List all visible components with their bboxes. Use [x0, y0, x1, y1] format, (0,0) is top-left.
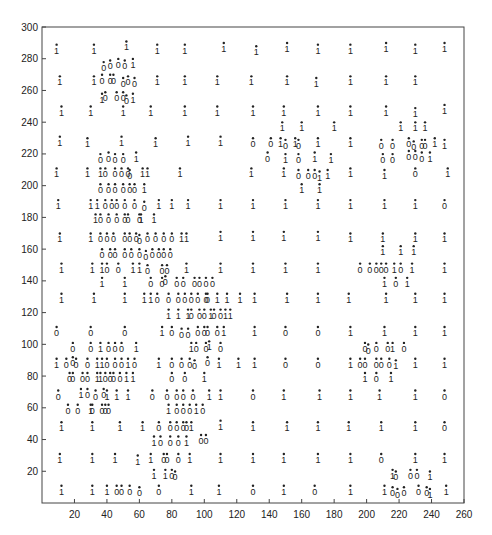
data-point: 0 — [122, 248, 127, 260]
data-point: 1 — [392, 262, 397, 274]
point-class-label: 1 — [281, 487, 286, 497]
data-point: 1 — [153, 137, 158, 149]
data-point: 0 — [103, 199, 108, 211]
data-point: 0 — [195, 326, 200, 338]
data-point: 0 — [406, 150, 411, 162]
point-class-label: 1 — [130, 265, 135, 275]
data-point: 1 — [151, 469, 156, 481]
y-tick-label: 80 — [27, 371, 39, 382]
point-class-label: 0 — [168, 438, 173, 448]
data-point: 1 — [238, 293, 243, 305]
point-class-label: 0 — [137, 488, 142, 498]
point-class-label: 1 — [249, 169, 254, 179]
point-class-label: 0 — [358, 265, 363, 275]
data-point: 1 — [280, 121, 285, 133]
point-class-label: 1 — [392, 265, 397, 275]
point-class-label: 0 — [111, 234, 116, 244]
data-point: 1 — [252, 326, 257, 338]
point-class-label: 0 — [70, 374, 75, 384]
point-class-label: 1 — [57, 455, 62, 465]
data-point: 1 — [249, 75, 254, 87]
data-point: 1 — [382, 199, 387, 211]
data-point: 0 — [113, 342, 118, 354]
point-class-label: 0 — [145, 234, 150, 244]
point-class-label: 1 — [382, 171, 387, 181]
point-class-label: 1 — [88, 234, 93, 244]
data-point: 0 — [169, 358, 174, 370]
data-point: 1 — [317, 170, 322, 182]
point-class-label: 0 — [103, 169, 108, 179]
data-point: 1 — [56, 199, 61, 211]
data-point: 0 — [212, 308, 217, 320]
point-class-label: 1 — [315, 201, 320, 211]
data-point: 1 — [151, 213, 156, 225]
data-point: 0 — [119, 485, 124, 497]
point-class-label: 1 — [411, 247, 416, 257]
data-point: 1 — [249, 167, 254, 179]
data-point: 0 — [142, 201, 147, 213]
point-class-label: 0 — [176, 455, 181, 465]
data-point: 1 — [445, 167, 450, 179]
data-point: 1 — [250, 199, 255, 211]
data-point: 0 — [296, 139, 301, 151]
point-class-label: 1 — [427, 154, 432, 164]
data-point: 1 — [398, 245, 403, 257]
data-point: 1 — [413, 199, 418, 211]
data-point: 0 — [127, 485, 132, 497]
data-point: 1 — [90, 485, 95, 497]
point-class-label: 1 — [410, 265, 415, 275]
data-point: 1 — [413, 389, 418, 401]
point-class-label: 1 — [281, 233, 286, 243]
point-class-label: 1 — [54, 360, 59, 370]
point-class-label: 0 — [181, 392, 186, 402]
data-point: 1 — [281, 231, 286, 243]
point-class-label: 0 — [119, 169, 124, 179]
data-point: 0 — [189, 293, 194, 305]
point-class-label: 0 — [113, 250, 118, 260]
point-class-label: 1 — [348, 108, 353, 118]
data-point: 1 — [95, 199, 100, 211]
data-point: 1 — [134, 342, 139, 354]
point-class-label: 1 — [250, 108, 255, 118]
data-point: 0 — [176, 453, 181, 465]
data-point: 1 — [177, 167, 182, 179]
data-point: 0 — [181, 389, 186, 401]
data-point: 1 — [384, 105, 389, 117]
data-point: 1 — [100, 277, 105, 289]
data-point: 0 — [104, 262, 109, 274]
data-point: 0 — [101, 61, 106, 73]
point-class-label: 1 — [187, 455, 192, 465]
x-tick-label: 260 — [456, 509, 473, 520]
point-class-label: 0 — [174, 423, 179, 433]
data-point: 1 — [119, 135, 124, 147]
data-point: 1 — [411, 245, 416, 257]
data-point: 0 — [103, 91, 108, 103]
data-point: 0 — [176, 435, 181, 447]
data-point: 1 — [444, 485, 449, 497]
data-point: 1 — [88, 105, 93, 117]
point-class-label: 1 — [126, 392, 131, 402]
point-class-label: 1 — [427, 490, 432, 500]
data-point: 0 — [312, 485, 317, 497]
point-class-label: 0 — [166, 295, 171, 305]
point-class-label: 0 — [161, 234, 166, 244]
point-class-label: 0 — [379, 141, 384, 151]
point-class-label: 0 — [250, 487, 255, 497]
data-point: 0 — [203, 277, 208, 289]
data-point: 1 — [285, 421, 290, 433]
point-class-label: 0 — [163, 277, 168, 287]
data-point: 0 — [163, 275, 168, 287]
point-class-label: 0 — [186, 330, 191, 340]
data-point: 1 — [362, 372, 367, 384]
data-point: 0 — [182, 372, 187, 384]
data-point: 0 — [179, 358, 184, 370]
point-class-label: 1 — [413, 328, 418, 338]
data-point: 0 — [442, 421, 447, 433]
data-point: 0 — [203, 434, 208, 446]
data-point: 0 — [423, 139, 428, 151]
data-point: 0 — [379, 358, 384, 370]
data-point: 0 — [380, 153, 385, 165]
point-class-label: 1 — [315, 265, 320, 275]
point-class-label: 0 — [205, 358, 210, 368]
data-point: 1 — [54, 167, 59, 179]
